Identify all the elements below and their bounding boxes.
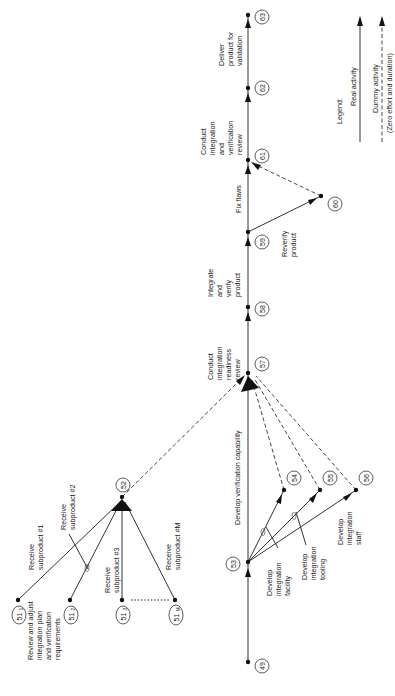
node-53: 53: [226, 557, 240, 571]
edge-52-57: [122, 378, 242, 497]
svg-text:Develop verification capabilit: Develop verification capability: [233, 430, 242, 525]
svg-text:Receive: Receive: [27, 544, 36, 570]
legend-dummy-label: Dummy activity: [371, 64, 380, 113]
label-reverify: Reverify product: [280, 230, 298, 257]
svg-text:53: 53: [230, 560, 237, 568]
svg-text:review: review: [235, 133, 244, 155]
arrowhead-61-from-60: [251, 162, 261, 170]
legend-title: Legend:: [335, 98, 344, 124]
svg-text:Deliver: Deliver: [217, 43, 226, 66]
label-dev-facility: Develop integration facility: [265, 562, 292, 596]
arrowhead-63: [245, 19, 251, 28]
svg-text:M: M: [175, 607, 181, 611]
arrowhead-57-fan: [241, 376, 259, 392]
svg-text:product: product: [233, 273, 242, 297]
svg-text:integration: integration: [309, 546, 318, 580]
svg-text:Fix flaws: Fix flaws: [234, 185, 243, 213]
svg-text:Dummy activity: Dummy activity: [371, 64, 380, 113]
svg-text:49: 49: [259, 662, 266, 670]
svg-text:59: 59: [259, 238, 266, 246]
svg-text:61: 61: [259, 152, 266, 160]
svg-text:staff: staff: [354, 532, 363, 545]
svg-text:and: and: [215, 285, 224, 297]
label-integrate-verify: Integrate and verify product: [206, 269, 242, 297]
svg-text:integration: integration: [208, 121, 217, 155]
legend-dummy-arrowhead: [379, 16, 385, 26]
svg-text:Conduct: Conduct: [206, 353, 215, 380]
svg-text:63: 63: [259, 13, 266, 21]
svg-text:Integrate: Integrate: [206, 269, 215, 297]
arrowhead-61: [245, 165, 251, 174]
edge-54-57: [252, 380, 284, 490]
svg-text:51: 51: [16, 613, 23, 621]
arrowhead-52-fan: [111, 499, 132, 511]
svg-text:Receive: Receive: [59, 504, 68, 530]
svg-text:Conduct: Conduct: [199, 128, 208, 155]
svg-text:Receive: Receive: [164, 544, 173, 570]
svg-text:55: 55: [327, 474, 334, 482]
svg-text:verify: verify: [224, 279, 233, 297]
label-develop-verification: Develop verification capability: [233, 430, 242, 525]
svg-text:57: 57: [259, 360, 266, 368]
svg-text:51: 51: [173, 614, 180, 622]
svg-text:subproduct #1: subproduct #1: [36, 524, 45, 570]
arrowhead-60: [308, 198, 317, 205]
node-60: 60: [328, 197, 342, 211]
label-iv-review: Conduct integration and verification rev…: [199, 121, 244, 155]
svg-text:Review and adjust: Review and adjust: [26, 601, 35, 660]
arrowhead-58: [245, 312, 251, 321]
label-fix-flaws: Fix flaws: [234, 185, 243, 213]
svg-text:integration: integration: [274, 562, 283, 596]
node-52: 52: [116, 478, 130, 492]
arrowhead-53: [245, 568, 251, 577]
svg-text:52: 52: [120, 481, 127, 489]
edge-60-61: [252, 163, 321, 196]
label-dev-tooling: Develop integration tooling: [300, 546, 327, 580]
node-61: 61: [255, 149, 269, 163]
legend: Legend: Real activity Dummy activity (Ze…: [335, 16, 394, 142]
svg-text:integration: integration: [215, 346, 224, 380]
svg-text:validation: validation: [235, 36, 244, 66]
svg-text:Reverify: Reverify: [280, 230, 289, 257]
node-58: 58: [255, 302, 269, 316]
svg-text:54: 54: [291, 474, 298, 482]
node-57: 57: [255, 357, 269, 371]
leader-dev-facility: [266, 527, 278, 548]
legend-real-label: Real activity: [349, 67, 358, 106]
svg-text:Develop: Develop: [336, 519, 345, 545]
edge-56-57: [256, 376, 356, 490]
svg-text:requirements: requirements: [53, 618, 62, 660]
svg-text:product: product: [289, 233, 298, 257]
svg-text:subproduct #2: subproduct #2: [68, 484, 77, 530]
arrowhead-62: [245, 93, 251, 102]
svg-text:Develop: Develop: [300, 554, 309, 580]
svg-text:review: review: [233, 358, 242, 380]
svg-text:51: 51: [120, 613, 127, 621]
svg-text:verification: verification: [226, 121, 235, 155]
arrowhead-55: [309, 493, 317, 503]
label-recv-m: Receive subproduct #M: [164, 522, 182, 570]
node-59: 59: [255, 235, 269, 249]
svg-text:facility: facility: [283, 576, 292, 596]
svg-text:integration: integration: [345, 511, 354, 545]
node-63: 63: [255, 10, 269, 24]
svg-text:Real activity: Real activity: [349, 67, 358, 106]
arrowhead-54: [276, 494, 282, 504]
svg-text:51: 51: [68, 613, 75, 621]
svg-text:Develop: Develop: [265, 570, 274, 596]
edge-55-57: [254, 378, 320, 490]
svg-text:subproduct #3: subproduct #3: [112, 547, 121, 593]
svg-text:product for: product for: [226, 31, 235, 66]
svg-text:tooling: tooling: [318, 559, 327, 580]
svg-text:58: 58: [259, 305, 266, 313]
svg-text:2: 2: [70, 608, 76, 611]
legend-dummy-note: (Zero effort and duration): [385, 53, 394, 133]
svg-text:and: and: [217, 143, 226, 155]
arrowhead-59: [245, 237, 251, 246]
label-recv-2: Receive subproduct #2: [59, 484, 77, 530]
arrowhead-56: [343, 493, 352, 501]
label-review-plan: Review and adjust integration plan and v…: [26, 601, 62, 660]
node-49: 49: [255, 659, 269, 673]
node-62: 62: [255, 81, 269, 95]
svg-text:and verification: and verification: [44, 612, 53, 660]
